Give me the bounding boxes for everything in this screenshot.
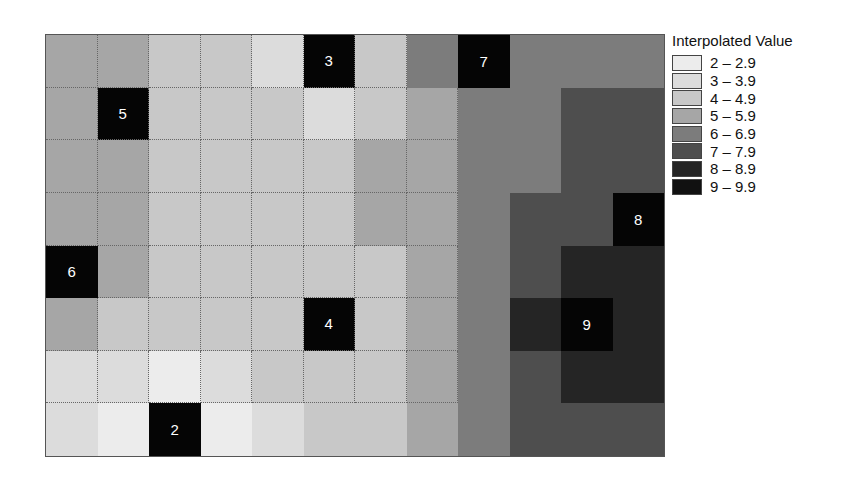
- grid-cell: [149, 246, 201, 299]
- grid-cell: [561, 351, 613, 404]
- grid-cell: [98, 403, 150, 456]
- grid-cell: [46, 403, 98, 456]
- grid-cell: [355, 351, 407, 404]
- grid-cell: [252, 246, 304, 299]
- legend-swatch: [672, 73, 702, 89]
- grid-cell: [149, 140, 201, 193]
- grid-cell: [304, 246, 356, 299]
- grid-cell: [458, 298, 510, 351]
- grid-cell: [201, 88, 253, 141]
- grid-cell: [613, 88, 665, 141]
- grid-cell: [149, 35, 201, 88]
- grid-cell: [98, 35, 150, 88]
- grid-cell: [561, 88, 613, 141]
- grid-cell: [355, 88, 407, 141]
- sample-point-cell: 9: [561, 298, 613, 351]
- legend-item: 5 – 5.9: [672, 107, 793, 125]
- grid-cell: [252, 351, 304, 404]
- grid-cell: [458, 140, 510, 193]
- grid-cell: [510, 246, 562, 299]
- grid-cell: [46, 298, 98, 351]
- sample-point-cell: 6: [46, 246, 98, 299]
- legend-label: 3 – 3.9: [710, 72, 756, 89]
- legend-label: 7 – 7.9: [710, 143, 756, 160]
- grid-cell: [149, 351, 201, 404]
- grid-cell: [252, 35, 304, 88]
- grid-cell: [561, 140, 613, 193]
- grid-cell: [201, 403, 253, 456]
- grid-cell: [613, 351, 665, 404]
- grid-cell: [252, 88, 304, 141]
- grid-cell: [149, 88, 201, 141]
- grid-cell: [613, 403, 665, 456]
- grid-cell: [458, 193, 510, 246]
- legend-label: 6 – 6.9: [710, 125, 756, 142]
- sample-point-cell: 2: [149, 403, 201, 456]
- grid-cell: [46, 193, 98, 246]
- grid-cell: [613, 35, 665, 88]
- grid-cell: [458, 403, 510, 456]
- sample-point-label: 9: [583, 316, 591, 333]
- sample-point-label: 8: [634, 211, 642, 228]
- sample-point-cell: 3: [304, 35, 356, 88]
- grid-cell: [355, 140, 407, 193]
- grid-cell: [355, 403, 407, 456]
- sample-point-cell: 8: [613, 193, 665, 246]
- grid-cell: [510, 351, 562, 404]
- grid-cell: [304, 140, 356, 193]
- grid-cell: [46, 35, 98, 88]
- legend-items: 2 – 2.93 – 3.94 – 4.95 – 5.96 – 6.97 – 7…: [672, 54, 793, 196]
- legend-item: 3 – 3.9: [672, 72, 793, 90]
- grid-cell: [613, 298, 665, 351]
- grid-cell: [355, 298, 407, 351]
- grid-cell: [98, 140, 150, 193]
- grid-cell: [407, 298, 459, 351]
- grid-cell: [252, 298, 304, 351]
- grid-cell: [561, 193, 613, 246]
- legend: Interpolated Value 2 – 2.93 – 3.94 – 4.9…: [672, 32, 793, 196]
- grid-cell: [561, 246, 613, 299]
- grid-cell: [510, 35, 562, 88]
- legend-label: 9 – 9.9: [710, 178, 756, 195]
- legend-label: 5 – 5.9: [710, 107, 756, 124]
- grid-cell: [458, 246, 510, 299]
- grid-cell: [46, 140, 98, 193]
- grid-cell: [407, 403, 459, 456]
- grid-cell: [407, 35, 459, 88]
- grid-cell: [201, 140, 253, 193]
- legend-item: 8 – 8.9: [672, 160, 793, 178]
- legend-swatch: [672, 161, 702, 177]
- grid-cell: [252, 140, 304, 193]
- grid-cell: [252, 403, 304, 456]
- interpolation-grid: 37586492: [45, 34, 665, 457]
- sample-point-cell: 5: [98, 88, 150, 141]
- sample-point-label: 6: [68, 263, 76, 280]
- sample-point-label: 4: [325, 315, 333, 332]
- grid-cell: [98, 351, 150, 404]
- grid-cell: [613, 140, 665, 193]
- grid-cell: [304, 351, 356, 404]
- legend-swatch: [672, 143, 702, 159]
- grid-cell: [613, 246, 665, 299]
- sample-point-label: 2: [171, 421, 179, 438]
- legend-swatch: [672, 108, 702, 124]
- grid-cell: [304, 88, 356, 141]
- legend-label: 2 – 2.9: [710, 54, 756, 71]
- grid-cell: [149, 193, 201, 246]
- grid-cell: [407, 246, 459, 299]
- grid-cell: [355, 35, 407, 88]
- sample-point-label: 3: [325, 52, 333, 69]
- grid-cell: [510, 193, 562, 246]
- legend-title: Interpolated Value: [672, 32, 793, 49]
- legend-item: 2 – 2.9: [672, 54, 793, 72]
- legend-swatch: [672, 90, 702, 106]
- grid-cell: [304, 403, 356, 456]
- grid-cell: [407, 88, 459, 141]
- legend-item: 9 – 9.9: [672, 178, 793, 196]
- sample-point-label: 7: [480, 53, 488, 70]
- grid-cell: [561, 35, 613, 88]
- legend-swatch: [672, 55, 702, 71]
- grid-cell: [304, 193, 356, 246]
- grid-cell: [510, 403, 562, 456]
- grid-cell: [201, 351, 253, 404]
